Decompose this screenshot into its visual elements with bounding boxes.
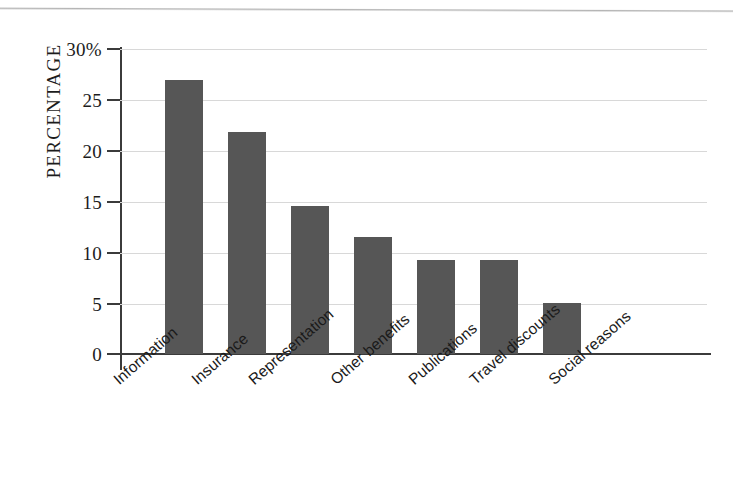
gridline-5 [120, 304, 707, 305]
gridline-10 [120, 253, 707, 254]
y-tick-mark-5 [107, 303, 121, 305]
bar-information [165, 80, 203, 355]
y-tick-mark-25 [107, 99, 121, 101]
y-tick-label-10: 10 [42, 244, 102, 263]
y-tick-label-15: 15 [42, 193, 102, 212]
gridline-30 [120, 49, 707, 50]
gridline-25 [120, 100, 707, 101]
gridline-15 [120, 202, 707, 203]
y-tick-label-5: 5 [42, 295, 102, 314]
gridline-20 [120, 151, 707, 152]
y-tick-mark-20 [107, 150, 121, 152]
y-tick-label-0: 0 [42, 345, 102, 364]
y-tick-mark-10 [107, 252, 121, 254]
y-axis-tick-labels: 30% 25 20 15 10 5 0 [30, 0, 102, 493]
y-tick-label-20: 20 [42, 142, 102, 161]
bar-chart-figure: PERCENTAGE 30% 25 20 15 10 5 0 Inform [0, 0, 733, 493]
bar-insurance [228, 132, 266, 354]
y-tick-mark-0 [107, 353, 121, 355]
y-tick-mark-15 [107, 201, 121, 203]
y-tick-mark-30 [107, 48, 121, 50]
y-tick-label-30: 30% [42, 40, 102, 59]
page-edge-rule [0, 7, 733, 13]
y-tick-label-25: 25 [42, 91, 102, 110]
